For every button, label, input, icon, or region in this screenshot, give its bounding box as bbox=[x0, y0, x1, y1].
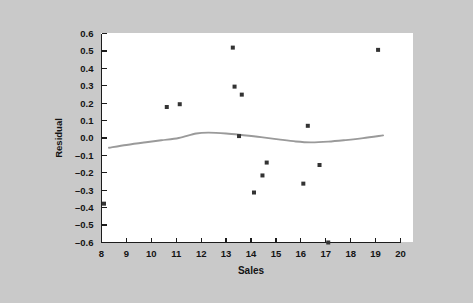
data-point bbox=[165, 105, 169, 109]
y-tick-label: 0.0 bbox=[80, 132, 93, 143]
x-tick-label: 18 bbox=[345, 248, 356, 259]
data-point bbox=[102, 202, 106, 206]
data-point bbox=[301, 182, 305, 186]
y-tick-label: –0.3 bbox=[75, 185, 94, 196]
data-point bbox=[178, 102, 182, 106]
x-tick-label: 13 bbox=[221, 248, 232, 259]
y-tick-label: 0.2 bbox=[80, 98, 93, 109]
data-point bbox=[265, 161, 269, 165]
x-tick-label: 9 bbox=[124, 248, 129, 259]
data-point bbox=[231, 46, 235, 50]
residual-scatter-plot: 8910111213141516171819200.60.50.40.30.20… bbox=[0, 0, 473, 303]
x-tick-label: 12 bbox=[196, 248, 207, 259]
y-tick-label: 0.4 bbox=[80, 63, 94, 74]
x-tick-label: 15 bbox=[271, 248, 282, 259]
y-tick-label: 0.1 bbox=[80, 115, 94, 126]
x-tick-label: 17 bbox=[320, 248, 331, 259]
x-tick-label: 14 bbox=[246, 248, 257, 259]
axis-lines bbox=[102, 34, 401, 243]
y-tick-label: –0.5 bbox=[75, 219, 94, 230]
data-point bbox=[240, 93, 244, 97]
data-point bbox=[306, 124, 310, 128]
figure-canvas: 8910111213141516171819200.60.50.40.30.20… bbox=[0, 0, 473, 303]
x-axis-title: Sales bbox=[238, 265, 265, 276]
data-point bbox=[376, 48, 380, 52]
data-point bbox=[260, 173, 264, 177]
y-tick-label: 0.3 bbox=[80, 80, 93, 91]
y-tick-label: 0.6 bbox=[80, 28, 93, 39]
data-point bbox=[237, 134, 241, 138]
y-tick-label: –0.1 bbox=[75, 150, 94, 161]
data-point bbox=[326, 241, 330, 245]
y-tick-label: 0.5 bbox=[80, 45, 94, 56]
data-point bbox=[233, 85, 237, 89]
x-tick-label: 16 bbox=[296, 248, 307, 259]
x-tick-label: 19 bbox=[370, 248, 381, 259]
y-tick-label: –0.2 bbox=[75, 167, 94, 178]
y-tick-label: –0.4 bbox=[75, 202, 94, 213]
x-tick-label: 11 bbox=[171, 248, 182, 259]
y-tick-label: –0.6 bbox=[75, 237, 94, 248]
x-tick-label: 10 bbox=[146, 248, 157, 259]
x-tick-label: 20 bbox=[395, 248, 406, 259]
x-tick-label: 8 bbox=[99, 248, 104, 259]
data-point bbox=[318, 163, 322, 167]
data-point bbox=[252, 191, 256, 195]
smoother-curve bbox=[109, 133, 383, 148]
y-axis-title: Residual bbox=[53, 118, 64, 158]
